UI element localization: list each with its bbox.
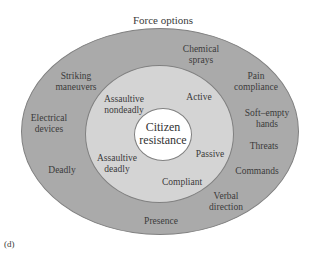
label-line: Presence	[144, 216, 178, 227]
resistance-compliant: Compliant	[162, 177, 202, 188]
label-line: Soft–empty	[245, 108, 289, 119]
resistance-passive: Passive	[196, 149, 225, 160]
force-soft-empty-hands: Soft–empty hands	[245, 108, 289, 129]
label-line: Passive	[196, 149, 225, 160]
label-line: Active	[186, 92, 211, 103]
label-line: Compliant	[162, 177, 202, 188]
resistance-active: Active	[186, 92, 211, 103]
label-line: Assaultive	[104, 94, 144, 105]
label-line: direction	[209, 201, 243, 212]
label-line: nondeadly	[104, 104, 144, 115]
label-line: Pain	[234, 71, 278, 82]
force-deadly: Deadly	[48, 165, 75, 176]
label-line: Threats	[250, 141, 279, 152]
label-line: compliance	[234, 81, 278, 92]
force-electrical-devices: Electrical devices	[31, 113, 67, 134]
label-line: devices	[31, 123, 67, 134]
figure-caption: (d)	[4, 239, 15, 250]
force-commands: Commands	[235, 166, 278, 177]
force-chemical-sprays: Chemical sprays	[183, 44, 219, 65]
label-line: Verbal	[209, 191, 243, 202]
force-pain-compliance: Pain compliance	[234, 71, 278, 92]
force-verbal-direction: Verbal direction	[209, 191, 243, 212]
label-line: Electrical	[31, 113, 67, 124]
label-line: Chemical	[183, 44, 219, 55]
label-line: Commands	[235, 166, 278, 177]
label-line: Striking	[55, 71, 96, 82]
diagram-title: Force options	[133, 15, 193, 26]
center-label: Citizen resistance	[139, 121, 186, 147]
label-line: sprays	[183, 54, 219, 65]
force-striking-maneuvers: Striking maneuvers	[55, 71, 96, 92]
force-threats: Threats	[250, 141, 279, 152]
center-line2: resistance	[139, 134, 186, 147]
label-line: Assaultive	[97, 153, 137, 164]
label-line: maneuvers	[55, 81, 96, 92]
resistance-assaultive-nondeadly: Assaultive nondeadly	[104, 94, 144, 115]
label-line: Deadly	[48, 165, 75, 176]
force-presence: Presence	[144, 216, 178, 227]
label-line: hands	[245, 118, 289, 129]
label-line: deadly	[97, 163, 137, 174]
resistance-assaultive-deadly: Assaultive deadly	[97, 153, 137, 174]
